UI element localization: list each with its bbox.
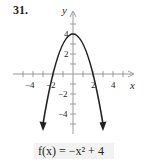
x-tick-label: 4 (111, 80, 116, 90)
function-graph: −4 −2 2 4 4 2 −2 −4 y x (0, 0, 146, 160)
y-tick-label: −2 (58, 89, 68, 99)
y-tick-label: −4 (58, 109, 68, 119)
curve-arrow-right-icon (100, 122, 107, 132)
curve-arrow-left-icon (40, 122, 47, 132)
y-axis (70, 11, 76, 134)
x-tick-label: −4 (25, 80, 35, 90)
y-axis-label: y (61, 4, 67, 16)
y-tick-label: 2 (64, 49, 69, 59)
x-axis-label: x (129, 79, 135, 91)
function-label: f(x) = −x² + 4 (38, 144, 104, 159)
